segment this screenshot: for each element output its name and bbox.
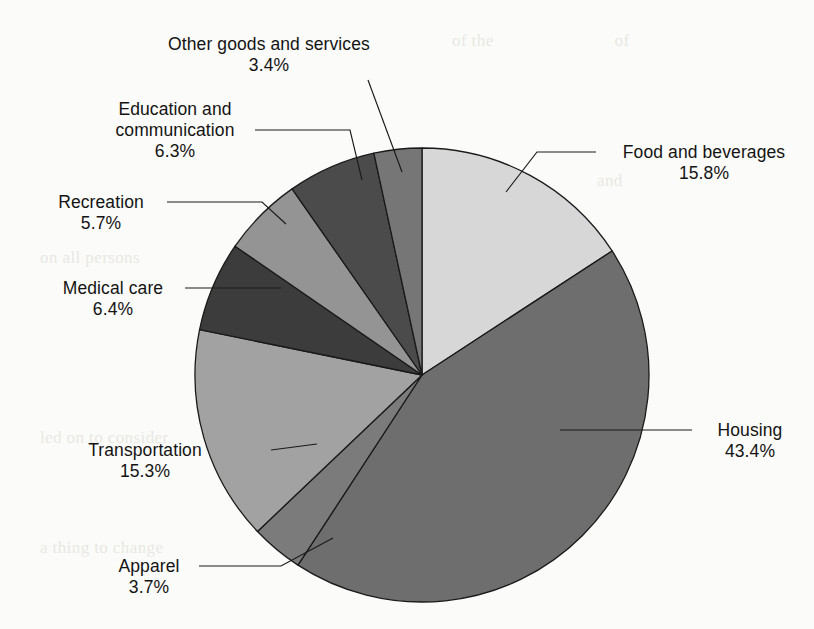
- pie-label-other-goods-name: Other goods and services: [139, 34, 399, 55]
- pie-label-housing-name: Housing: [700, 420, 800, 441]
- pie-label-medical-care: Medical care 6.4%: [46, 278, 180, 320]
- pie-label-transportation: Transportation 15.3%: [23, 440, 267, 482]
- pie-label-medical-care-percent: 6.4%: [46, 299, 180, 320]
- pie-label-transportation-percent: 15.3%: [23, 461, 267, 482]
- pie-label-recreation-name: Recreation: [40, 192, 162, 213]
- pie-label-education-percent: 6.3%: [95, 141, 255, 162]
- pie-label-education: Education and communication 6.3%: [95, 99, 255, 162]
- pie-label-recreation-percent: 5.7%: [40, 213, 162, 234]
- pie-label-apparel-name: Apparel: [104, 556, 194, 577]
- pie-label-transportation-name: Transportation: [23, 440, 267, 461]
- pie-slice-group: [195, 148, 649, 602]
- pie-label-apparel: Apparel 3.7%: [104, 556, 194, 598]
- pie-label-education-name-line1: Education and: [95, 99, 255, 120]
- pie-label-other-goods-percent: 3.4%: [139, 55, 399, 76]
- pie-label-medical-care-name: Medical care: [46, 278, 180, 299]
- pie-label-housing: Housing 43.4%: [700, 420, 800, 462]
- pie-chart: Other goods and services 3.4% Education …: [0, 0, 814, 629]
- pie-label-recreation: Recreation 5.7%: [40, 192, 162, 234]
- pie-label-food-and-beverages-name: Food and beverages: [604, 142, 804, 163]
- pie-chart-page: of the of from the and the of the a thin…: [0, 0, 814, 629]
- pie-label-housing-percent: 43.4%: [700, 441, 800, 462]
- pie-label-apparel-percent: 3.7%: [104, 577, 194, 598]
- pie-label-other-goods: Other goods and services 3.4%: [139, 34, 399, 76]
- pie-label-education-name-line2: communication: [95, 120, 255, 141]
- pie-label-food-and-beverages-percent: 15.8%: [604, 163, 804, 184]
- pie-label-food-and-beverages: Food and beverages 15.8%: [604, 142, 804, 184]
